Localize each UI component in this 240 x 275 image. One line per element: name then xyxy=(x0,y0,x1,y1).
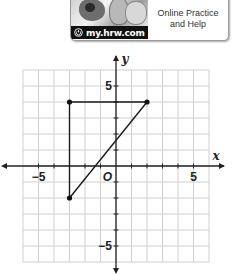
axes xyxy=(1,56,224,274)
origin-label: O xyxy=(103,170,113,184)
x-tick-label-neg5: −5 xyxy=(32,170,46,184)
x-axis-left-arrow-icon xyxy=(1,163,7,169)
coordinate-graph: −5 5 −5 5 O x y xyxy=(0,0,240,275)
y-tick-label-neg5: −5 xyxy=(98,239,112,253)
point xyxy=(67,99,72,104)
y-axis-down-arrow-icon xyxy=(113,268,119,274)
y-axis-label: y xyxy=(121,52,130,66)
point xyxy=(67,195,72,200)
y-tick-label-5: 5 xyxy=(105,79,112,93)
x-tick-label-5: 5 xyxy=(190,170,197,184)
axis-labels: −5 5 −5 5 O x y xyxy=(32,52,221,253)
point xyxy=(144,99,149,104)
x-axis-label: x xyxy=(211,149,220,163)
